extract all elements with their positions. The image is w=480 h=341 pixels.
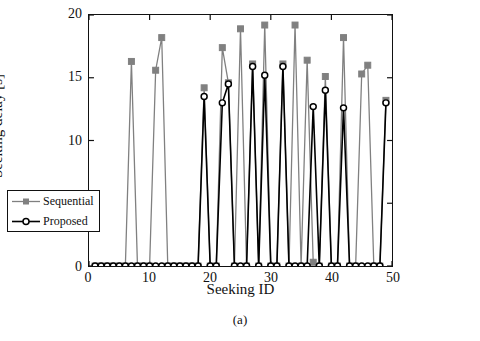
data-point xyxy=(292,263,298,266)
data-point xyxy=(219,100,225,106)
data-point xyxy=(225,81,231,87)
data-point xyxy=(177,263,183,266)
data-point xyxy=(365,62,371,68)
x-axis-label: Seeking ID xyxy=(88,281,393,298)
y-tick-label: 0 xyxy=(48,259,82,275)
data-point xyxy=(377,263,383,266)
data-point xyxy=(219,45,225,51)
data-point xyxy=(128,58,134,64)
data-point xyxy=(238,263,244,266)
data-point xyxy=(104,263,110,266)
data-point xyxy=(207,263,213,266)
data-point xyxy=(256,263,262,266)
data-point xyxy=(268,263,274,266)
legend-item: Sequential xyxy=(8,191,99,212)
data-point xyxy=(159,35,165,41)
legend-square-marker-icon xyxy=(11,191,41,212)
data-point xyxy=(347,263,353,266)
data-point xyxy=(183,263,189,266)
chart-legend: SequentialProposed xyxy=(7,190,100,232)
data-point xyxy=(128,263,134,266)
data-point xyxy=(262,72,268,78)
data-point xyxy=(341,105,347,111)
data-point xyxy=(213,263,219,266)
data-point xyxy=(365,263,371,266)
data-point xyxy=(298,263,304,266)
data-point xyxy=(159,263,165,266)
data-point xyxy=(141,263,147,266)
data-point xyxy=(353,263,359,266)
data-point xyxy=(195,263,201,266)
data-point xyxy=(165,263,171,266)
data-point xyxy=(359,71,365,77)
data-point xyxy=(274,263,280,266)
data-point xyxy=(383,100,389,106)
data-point xyxy=(238,26,244,32)
data-point xyxy=(310,104,316,110)
data-point xyxy=(262,22,268,28)
legend-label: Proposed xyxy=(43,214,88,229)
data-point xyxy=(244,263,250,266)
data-point xyxy=(153,263,159,266)
data-point xyxy=(171,263,177,266)
figure-caption: (a) xyxy=(0,312,480,328)
legend-circle-marker-icon xyxy=(11,211,41,232)
data-point xyxy=(116,263,122,266)
data-point xyxy=(316,263,322,266)
data-point xyxy=(334,263,340,266)
data-point xyxy=(92,263,98,266)
data-point xyxy=(201,85,207,91)
data-point xyxy=(286,263,292,266)
data-point xyxy=(153,67,159,73)
data-point xyxy=(201,94,207,100)
data-point xyxy=(304,263,310,266)
data-point xyxy=(122,263,128,266)
data-point xyxy=(304,57,310,63)
y-axis-label: Seeking delay [s] xyxy=(0,74,6,178)
data-point xyxy=(134,263,140,266)
data-point xyxy=(250,63,256,69)
data-point xyxy=(328,263,334,266)
data-point xyxy=(359,263,365,266)
y-tick-label: 15 xyxy=(48,69,82,85)
data-point xyxy=(322,74,328,80)
data-point xyxy=(322,87,328,93)
legend-item: Proposed xyxy=(8,211,99,232)
figure: 05101520 Seeking delay [s] 01020304050 S… xyxy=(0,0,480,341)
data-point xyxy=(280,63,286,69)
data-point xyxy=(189,263,195,266)
data-point xyxy=(110,263,116,266)
y-tick-label: 20 xyxy=(48,6,82,22)
data-point xyxy=(310,259,316,265)
chart-svg xyxy=(89,15,392,266)
data-point xyxy=(292,22,298,28)
legend-label: Sequential xyxy=(43,194,94,209)
plot-area xyxy=(88,14,393,267)
data-point xyxy=(231,263,237,266)
data-point xyxy=(341,35,347,41)
data-point xyxy=(147,263,153,266)
y-tick-label: 10 xyxy=(48,133,82,149)
data-point xyxy=(98,263,104,266)
data-point xyxy=(371,263,377,266)
